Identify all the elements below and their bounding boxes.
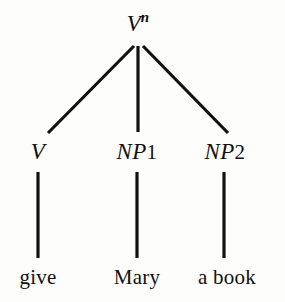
node-base-symbol: NP xyxy=(205,139,235,164)
node-base-symbol: V xyxy=(31,139,45,164)
tree-leaf-give: give xyxy=(20,267,57,288)
node-index: 2 xyxy=(235,140,246,164)
root-superscript: n xyxy=(141,9,149,25)
tree-leaf-mary: Mary xyxy=(114,267,160,288)
tree-node-np2: NP2 xyxy=(205,140,246,163)
tree-node-root: Vn xyxy=(127,10,149,35)
node-base-symbol: NP xyxy=(117,139,147,164)
tree-edge xyxy=(143,46,228,133)
tree-node-v: V xyxy=(31,140,45,163)
tree-edge xyxy=(48,46,134,133)
root-base-symbol: V xyxy=(127,11,141,36)
syntax-tree-figure: VnVNP1NP2giveMarya book xyxy=(0,0,285,302)
tree-leaf-a-book: a book xyxy=(198,267,256,288)
tree-node-np1: NP1 xyxy=(117,140,158,163)
node-index: 1 xyxy=(147,140,158,164)
